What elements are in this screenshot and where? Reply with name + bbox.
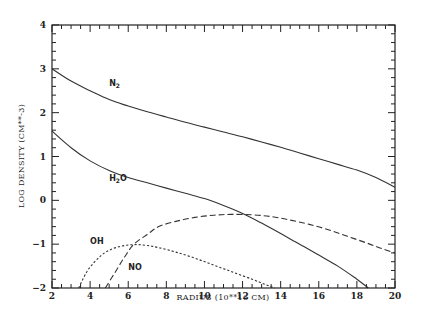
density-chart: 2468101214161820−2−101234 N2H2ONOOH RADI… <box>0 0 421 323</box>
series-label-text: N <box>109 79 116 88</box>
x-tick-label: 14 <box>274 291 287 301</box>
series-label-oh: OH <box>90 237 104 246</box>
x-tick-label: 18 <box>351 291 364 301</box>
series-label-text: OH <box>90 237 104 246</box>
x-tick-label: 6 <box>125 291 131 301</box>
series-label-n2: N2 <box>109 79 120 89</box>
x-axis-title: RADIUS (10**16 CM) <box>177 293 270 302</box>
series-line-no <box>105 214 395 288</box>
y-tick-label: 2 <box>40 108 46 118</box>
y-tick-label: −2 <box>32 283 46 293</box>
series-line-n2 <box>52 69 395 187</box>
series-line-h2o <box>52 131 368 288</box>
series-label-subscript: 2 <box>116 82 120 89</box>
x-tick-label: 2 <box>49 291 55 301</box>
x-tick-label: 16 <box>313 291 326 301</box>
y-tick-label: 3 <box>40 64 46 74</box>
x-tick-label: 20 <box>389 291 402 301</box>
y-axis-title: LOG DENSITY (CM**-3) <box>17 104 26 208</box>
y-tick-label: 0 <box>40 195 46 205</box>
tick-labels-layer: 2468101214161820−2−101234 <box>32 20 401 301</box>
ticks-layer <box>52 25 395 288</box>
curves-layer <box>52 69 395 288</box>
series-line-oh <box>79 245 275 288</box>
x-tick-label: 8 <box>163 291 169 301</box>
series-label-suffix: O <box>120 174 127 183</box>
x-tick-label: 4 <box>87 291 93 301</box>
series-label-text: H <box>109 174 116 183</box>
series-label-text: NO <box>128 263 142 272</box>
series-label-no: NO <box>128 263 142 272</box>
y-tick-label: 1 <box>40 152 46 162</box>
y-tick-label: 4 <box>40 20 46 30</box>
plot-frame <box>52 25 395 288</box>
series-label-h2o: H2O <box>109 174 127 184</box>
y-tick-label: −1 <box>32 239 46 249</box>
